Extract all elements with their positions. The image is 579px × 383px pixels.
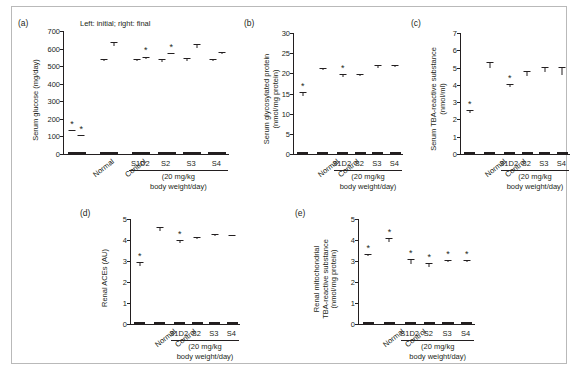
treatment-dose-line2: body weight/day)	[340, 182, 397, 191]
xtick-label-s1d2: S1D2	[499, 159, 518, 168]
bar-fill-s4-initial	[208, 152, 217, 154]
xtick-label-s4: S4	[212, 159, 221, 168]
bar-fill-control-initial	[100, 152, 109, 154]
significance-star-s2: *	[428, 254, 432, 260]
treatment-group-rule	[401, 340, 474, 341]
bar-fill-normal	[464, 152, 475, 154]
ytick-mark-15	[290, 94, 294, 95]
error-bar-cap	[218, 52, 225, 53]
xtick-label-s3: S3	[372, 159, 381, 168]
error-bar-cap	[168, 53, 175, 54]
ytick-mark-10	[290, 114, 294, 115]
bar-fill-s4	[461, 322, 473, 324]
bar-s2	[522, 76, 533, 154]
treatment-dose-line2: body weight/day)	[177, 352, 234, 361]
error-bar-cap	[339, 74, 346, 75]
bar-fill-s4	[557, 152, 568, 154]
bar-s4-initial	[208, 61, 217, 154]
panel-a-bars: ****	[64, 31, 229, 154]
error-bar-cap	[133, 59, 140, 60]
error-bar-cap	[466, 110, 473, 111]
ytick-mark-5	[127, 219, 131, 220]
bar-fill-s3	[442, 322, 454, 324]
bar-normal: *	[134, 266, 145, 324]
ytick-mark-4	[127, 240, 131, 241]
treatment-dose-line1: (20 mg/kg	[351, 172, 384, 181]
significance-star-s1d2: *	[508, 75, 512, 81]
bar-control-initial	[100, 61, 109, 154]
significance-star-normal: *	[138, 253, 142, 259]
bar-normal: *	[464, 113, 475, 154]
error-bar-cap	[319, 68, 326, 69]
xtick-label-s1d2: S1D2	[169, 329, 188, 338]
panel-b: (b) Serum glycosylated protein (nmol/mg …	[240, 15, 407, 205]
bar-control	[317, 70, 328, 154]
bar-fill-s2	[424, 322, 436, 324]
ytick-mark-2	[457, 119, 461, 120]
xtick-label-s4: S4	[227, 329, 236, 338]
bar-fill-control	[154, 322, 165, 324]
ytick-mark-3	[457, 102, 461, 103]
significance-star-s1d2-final: *	[144, 47, 148, 53]
treatment-group-rule	[334, 170, 403, 171]
bar-fill-s3	[539, 152, 550, 154]
panel-e: (e) Renal mitochondrial TBA-reactive sub…	[295, 205, 485, 365]
bar-s3-final	[192, 48, 201, 154]
treatment-group-caption: (20 mg/kgbody weight/day)	[150, 172, 207, 191]
error-bar-cap	[463, 260, 470, 261]
ytick-mark-2	[127, 282, 131, 283]
significance-star-s1d2: *	[409, 250, 413, 256]
error-bar-cap	[365, 254, 372, 255]
panel-d-tag: (d)	[80, 208, 90, 218]
error-bar-cap	[156, 227, 163, 228]
bar-fill-s2	[522, 152, 533, 154]
bar-fill-s1d2	[337, 152, 348, 154]
xtick-label-s4: S4	[390, 159, 399, 168]
bar-normal-final: *	[77, 136, 86, 154]
error-bar-cap	[209, 59, 216, 60]
treatment-group-rule	[171, 340, 240, 341]
panel-d-ylabel: Renal ACEs (AU)	[100, 223, 109, 333]
error-bar-cap	[193, 44, 200, 45]
bar-fill-s1d2-initial	[132, 152, 141, 154]
bar-fill-s1d2-final	[141, 152, 150, 154]
bar-s3	[539, 72, 550, 154]
error-bar-cap	[386, 238, 393, 239]
ytick-mark-700	[60, 31, 64, 32]
xtick-label-s2: S2	[522, 159, 531, 168]
error-bar-cap	[69, 130, 76, 131]
ytick-mark-1	[355, 303, 359, 304]
bar-fill-s4-final	[217, 152, 226, 154]
ytick-mark-0	[457, 154, 461, 155]
significance-star-normal-initial: *	[70, 121, 74, 127]
ytick-mark-1	[127, 303, 131, 304]
ytick-mark-6	[457, 50, 461, 51]
panel-d: (d) Renal ACEs (AU) ** 012345NormalContr…	[80, 205, 250, 365]
panel-b-ylabel: Serum glycosylated protein (nmol/mg prot…	[262, 35, 280, 163]
treatment-group-caption: (20 mg/kgbody weight/day)	[409, 342, 466, 361]
xtick-label-s3: S3	[209, 329, 218, 338]
error-bar-cap	[426, 263, 433, 264]
ytick-mark-5	[290, 134, 294, 135]
bar-fill-normal-final	[77, 152, 86, 154]
error-bar-cap	[110, 42, 117, 43]
treatment-group-caption: (20 mg/kgbody weight/day)	[177, 342, 234, 361]
panel-b-tag: (b)	[244, 18, 254, 28]
error-bar-cap	[559, 67, 566, 68]
panel-c: (c) Serum TBA-reactive substance (nmol/m…	[407, 15, 575, 205]
panel-d-bars: **	[131, 219, 240, 324]
bar-s3	[209, 236, 220, 324]
bar-fill-s3	[209, 322, 220, 324]
panel-b-plot: ** 051015202530NormalControlS1D2S2S3S4(2…	[293, 33, 403, 155]
bar-s1d2: *	[337, 77, 348, 154]
ytick-mark-400	[60, 84, 64, 85]
error-bar-cap	[229, 235, 236, 236]
significance-star-control: *	[388, 229, 392, 235]
xtick-label-s4: S4	[557, 159, 566, 168]
bar-normal: *	[363, 256, 375, 324]
treatment-group-caption: (20 mg/kgbody weight/day)	[507, 172, 564, 191]
xtick-label-s2: S2	[355, 159, 364, 168]
ytick-mark-1	[457, 137, 461, 138]
error-bar-cap	[136, 262, 143, 263]
bar-fill-s4	[390, 152, 401, 154]
